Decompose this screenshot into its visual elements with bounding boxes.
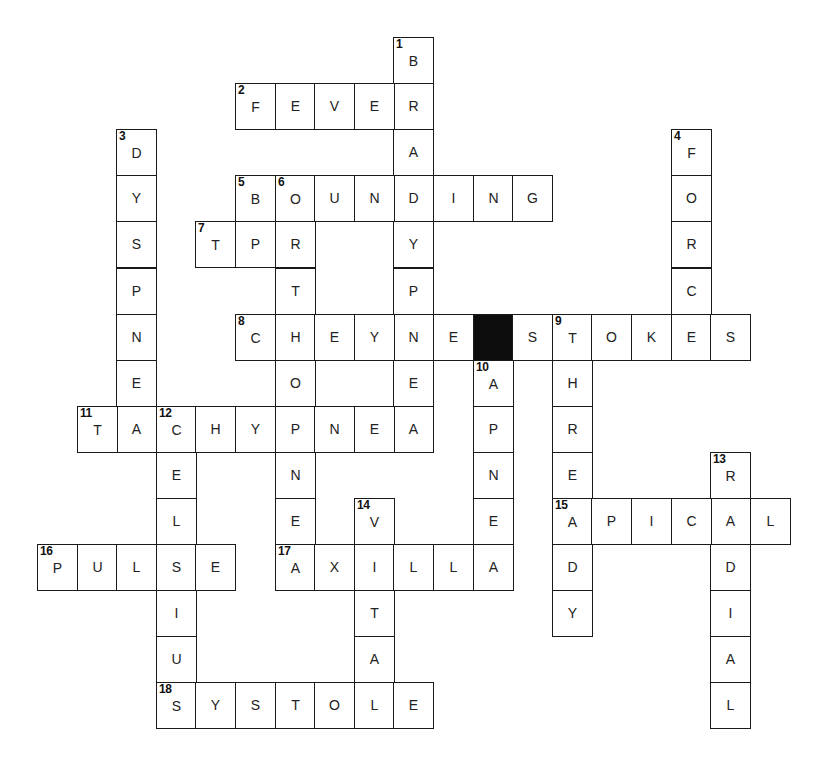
grid-cell[interactable]: 17A [275, 544, 316, 591]
grid-cell[interactable]: N [354, 175, 395, 222]
grid-cell[interactable]: S [116, 221, 157, 268]
grid-cell[interactable]: A [116, 406, 157, 453]
grid-cell[interactable]: T [354, 590, 395, 637]
grid-cell[interactable]: A [710, 498, 751, 545]
grid-cell[interactable]: E [156, 452, 197, 499]
grid-cell[interactable]: L [354, 682, 395, 729]
grid-cell[interactable]: L [750, 498, 791, 545]
grid-cell[interactable]: D [552, 544, 593, 591]
grid-cell[interactable]: 9T [552, 314, 593, 361]
grid-cell[interactable]: L [393, 544, 434, 591]
grid-cell[interactable]: S [710, 314, 751, 361]
grid-cell[interactable]: V [314, 83, 355, 130]
grid-cell[interactable]: N [473, 452, 514, 499]
grid-cell[interactable]: Y [393, 221, 434, 268]
grid-cell[interactable]: 5B [235, 175, 276, 222]
grid-cell[interactable]: 12C [156, 406, 197, 453]
grid-cell[interactable]: 3D [116, 129, 157, 176]
grid-cell[interactable]: D [710, 544, 751, 591]
grid-cell[interactable]: I [631, 498, 672, 545]
grid-cell[interactable]: S [512, 314, 553, 361]
grid-cell[interactable]: K [631, 314, 672, 361]
grid-cell[interactable]: E [354, 83, 395, 130]
grid-cell[interactable]: 2F [235, 83, 276, 130]
grid-cell[interactable]: 15A [552, 498, 593, 545]
grid-cell[interactable]: P [116, 268, 157, 315]
grid-cell[interactable]: R [275, 221, 316, 268]
grid-cell[interactable]: T [275, 682, 316, 729]
grid-cell[interactable]: E [314, 314, 355, 361]
grid-cell[interactable]: 13R [710, 452, 751, 499]
grid-cell[interactable]: 18S [156, 682, 197, 729]
grid-cell[interactable]: O [314, 682, 355, 729]
grid-cell[interactable]: 11T [77, 406, 118, 453]
grid-cell[interactable]: C [671, 498, 712, 545]
grid-cell[interactable]: X [314, 544, 355, 591]
grid-cell[interactable]: 14V [354, 498, 395, 545]
grid-cell[interactable]: S [235, 682, 276, 729]
grid-cell[interactable]: R [552, 406, 593, 453]
grid-cell[interactable]: A [393, 129, 434, 176]
grid-cell[interactable]: N [116, 314, 157, 361]
grid-cell[interactable]: E [393, 682, 434, 729]
grid-cell[interactable]: 6O [275, 175, 316, 222]
grid-cell[interactable]: A [473, 544, 514, 591]
grid-cell[interactable]: E [433, 314, 474, 361]
grid-cell[interactable]: E [552, 452, 593, 499]
grid-cell[interactable]: P [275, 406, 316, 453]
grid-cell[interactable]: U [77, 544, 118, 591]
grid-cell[interactable]: R [393, 83, 434, 130]
grid-cell[interactable]: H [275, 314, 316, 361]
grid-cell[interactable]: L [116, 544, 157, 591]
grid-cell[interactable]: I [156, 590, 197, 637]
grid-cell[interactable]: 1B [393, 37, 434, 84]
grid-cell[interactable]: N [275, 452, 316, 499]
grid-cell[interactable]: N [393, 314, 434, 361]
grid-cell[interactable]: E [275, 83, 316, 130]
grid-cell[interactable]: P [591, 498, 632, 545]
grid-cell[interactable]: E [195, 544, 236, 591]
grid-cell[interactable]: O [671, 175, 712, 222]
grid-cell[interactable]: O [275, 360, 316, 407]
grid-cell[interactable]: 8C [235, 314, 276, 361]
grid-cell[interactable]: E [354, 406, 395, 453]
grid-cell[interactable]: N [314, 406, 355, 453]
grid-cell[interactable]: E [116, 360, 157, 407]
grid-cell[interactable]: E [671, 314, 712, 361]
grid-cell[interactable]: H [195, 406, 236, 453]
grid-cell[interactable]: U [314, 175, 355, 222]
grid-cell[interactable]: Y [552, 590, 593, 637]
grid-cell[interactable]: I [710, 590, 751, 637]
grid-cell[interactable]: I [354, 544, 395, 591]
grid-cell[interactable]: P [235, 221, 276, 268]
grid-cell[interactable]: 10A [473, 360, 514, 407]
grid-cell[interactable]: E [275, 498, 316, 545]
grid-cell[interactable]: P [473, 406, 514, 453]
grid-cell[interactable]: L [710, 682, 751, 729]
grid-cell[interactable]: C [671, 268, 712, 315]
grid-cell[interactable]: A [710, 636, 751, 683]
grid-cell[interactable]: S [156, 544, 197, 591]
grid-cell[interactable]: G [512, 175, 553, 222]
grid-cell[interactable]: L [156, 498, 197, 545]
grid-cell[interactable]: E [393, 360, 434, 407]
grid-cell[interactable]: 4F [671, 129, 712, 176]
grid-cell[interactable]: Y [235, 406, 276, 453]
grid-cell[interactable]: A [354, 636, 395, 683]
grid-cell[interactable]: P [393, 268, 434, 315]
grid-cell[interactable]: I [433, 175, 474, 222]
grid-cell[interactable]: 16P [37, 544, 78, 591]
grid-cell[interactable]: U [156, 636, 197, 683]
grid-cell[interactable]: Y [354, 314, 395, 361]
grid-cell[interactable]: A [393, 406, 434, 453]
grid-cell[interactable]: Y [195, 682, 236, 729]
grid-cell[interactable]: H [552, 360, 593, 407]
grid-cell[interactable]: L [433, 544, 474, 591]
grid-cell[interactable]: R [671, 221, 712, 268]
grid-cell[interactable]: T [275, 268, 316, 315]
grid-cell[interactable]: D [393, 175, 434, 222]
grid-cell[interactable]: O [591, 314, 632, 361]
grid-cell[interactable]: 7T [195, 221, 236, 268]
grid-cell[interactable]: Y [116, 175, 157, 222]
grid-cell[interactable]: E [473, 498, 514, 545]
